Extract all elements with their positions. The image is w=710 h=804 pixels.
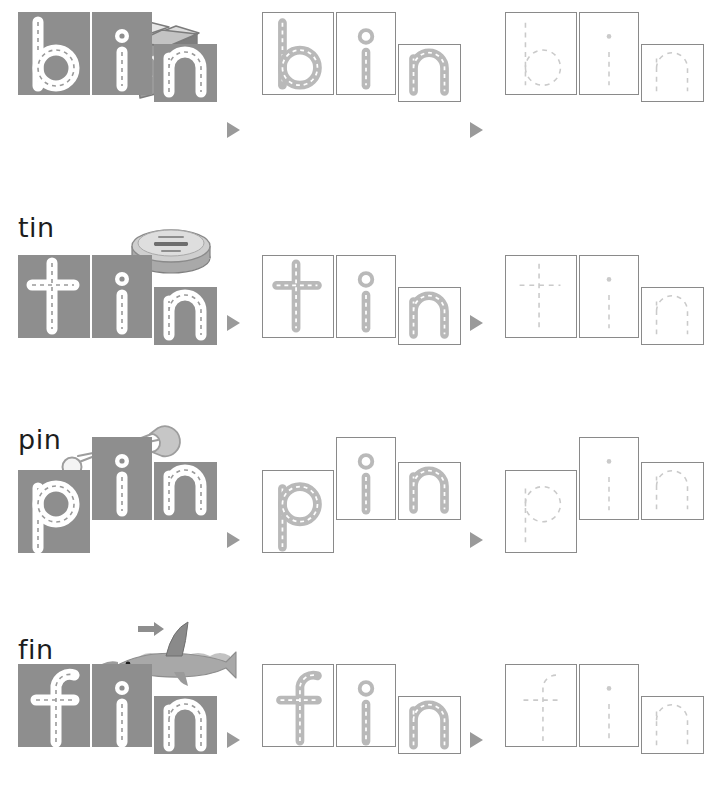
word-row-bin: bin — [0, 0, 710, 200]
letter-tile-i — [92, 437, 152, 520]
stage-outlined-fin — [262, 604, 462, 774]
stage-filled-bin — [18, 0, 218, 170]
letter-tile-n — [641, 44, 704, 102]
letter-tile-n — [398, 287, 461, 345]
letter-tile-i — [92, 12, 152, 95]
letter-tile-p — [505, 470, 577, 553]
letter-tile-i — [92, 664, 152, 747]
word-row-tin: tin — [0, 200, 710, 400]
letter-tile-n — [641, 462, 704, 520]
letter-tile-n — [154, 462, 217, 520]
arrow-1-tin — [227, 315, 240, 331]
letter-tile-t — [505, 255, 577, 338]
letter-tile-i — [336, 664, 396, 747]
letter-tile-n — [154, 44, 217, 102]
letter-tile-i — [579, 437, 639, 520]
letter-tile-i — [579, 255, 639, 338]
letter-tile-i — [336, 437, 396, 520]
arrow-2-bin — [470, 122, 483, 138]
arrow-1-bin — [227, 122, 240, 138]
letter-tile-n — [398, 462, 461, 520]
arrow-1-fin — [227, 732, 240, 748]
word-row-pin: pin — [0, 404, 710, 604]
letter-tile-i — [579, 664, 639, 747]
stage-trace-bin — [505, 0, 705, 170]
letter-tile-b — [505, 12, 577, 95]
letter-tile-n — [154, 287, 217, 345]
arrow-2-tin — [470, 315, 483, 331]
letter-tile-f — [262, 664, 334, 747]
stage-outlined-bin — [262, 0, 462, 170]
worksheet-page: bin — [0, 0, 710, 804]
letter-tile-f — [505, 664, 577, 747]
letter-tile-b — [262, 12, 334, 95]
stage-trace-fin — [505, 604, 705, 774]
stage-outlined-tin — [262, 200, 462, 370]
arrow-1-pin — [227, 532, 240, 548]
letter-tile-n — [641, 696, 704, 754]
letter-tile-i — [336, 12, 396, 95]
letter-tile-t — [262, 255, 334, 338]
letter-tile-n — [641, 287, 704, 345]
letter-tile-t — [18, 255, 90, 338]
stage-filled-fin — [18, 604, 218, 774]
letter-tile-i — [336, 255, 396, 338]
stage-filled-tin — [18, 200, 218, 370]
letter-tile-f — [18, 664, 90, 747]
stage-trace-tin — [505, 200, 705, 370]
letter-tile-b — [18, 12, 90, 95]
letter-tile-n — [398, 44, 461, 102]
arrow-2-pin — [470, 532, 483, 548]
letter-tile-p — [262, 470, 334, 553]
arrow-2-fin — [470, 732, 483, 748]
letter-tile-n — [154, 696, 217, 754]
letter-tile-p — [18, 470, 90, 553]
letter-tile-i — [92, 255, 152, 338]
stage-outlined-pin — [262, 404, 462, 584]
stage-trace-pin — [505, 404, 705, 584]
letter-tile-n — [398, 696, 461, 754]
stage-filled-pin — [18, 404, 218, 584]
letter-tile-i — [579, 12, 639, 95]
word-row-fin: fin — [0, 604, 710, 804]
